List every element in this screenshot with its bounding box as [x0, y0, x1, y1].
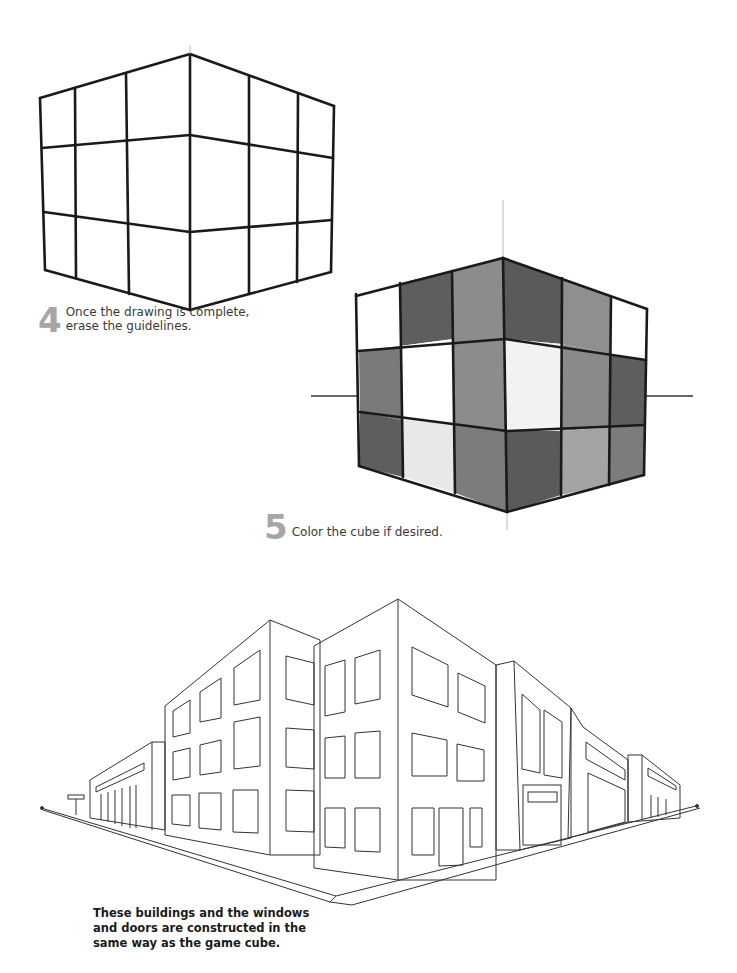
street-scene-illustration: [0, 0, 737, 973]
figure-caption: These buildings and the windows and door…: [93, 906, 323, 951]
